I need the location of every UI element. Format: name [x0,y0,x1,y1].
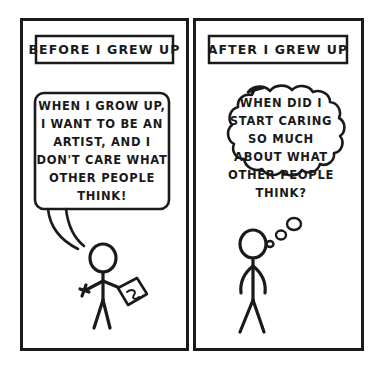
thought-dot-large [287,218,301,230]
caption-box-left: BEFORE I GREW UP [28,36,180,63]
caption-right-text: AFTER I GREW UP [208,42,349,57]
speech-line-5: OTHER PEOPLE [49,171,155,185]
speech-line-2: I WANT TO BE AN [41,117,163,131]
comic-strip: BEFORE I GREW UP WHEN I GROW UP, I WANT … [0,0,385,371]
speech-line-6: THINK! [77,189,127,203]
thought-line-6: THINK? [255,186,306,200]
thought-line-3: SO MUCH [248,132,314,146]
thought-line-1: WHEN DID I [240,96,322,110]
caption-box-right: AFTER I GREW UP [208,36,349,63]
thought-line-4: ABOUT WHAT [234,150,328,164]
thought-dot-medium [276,231,286,240]
thought-line-2: START CARING [230,114,332,128]
caption-left-text: BEFORE I GREW UP [28,42,180,57]
panel-right: AFTER I GREW UP WHEN DID I START CARING … [195,20,363,350]
figure-head-icon [90,244,116,272]
speech-line-3: ARTIST, AND I [53,135,151,149]
speech-line-4: DON'T CARE WHAT [36,153,167,167]
speech-line-1: WHEN I GROW UP, [38,99,165,113]
panel-left: BEFORE I GREW UP WHEN I GROW UP, I WANT … [22,20,188,350]
thought-line-5: OTHER PEOPLE [228,168,334,182]
panel-right-border [195,20,363,350]
figure-head-icon-adult [240,230,266,258]
